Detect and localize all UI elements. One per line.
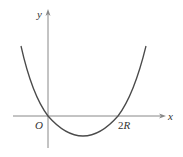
graph-svg: y x O 2R [0, 0, 183, 157]
root-label-2R: 2R [118, 119, 131, 131]
root-symbol: R [123, 119, 131, 131]
origin-label: O [35, 119, 43, 131]
x-axis-label: x [167, 110, 173, 122]
y-axis-label: y [36, 8, 42, 20]
graph-diagram: y x O 2R [0, 0, 183, 157]
